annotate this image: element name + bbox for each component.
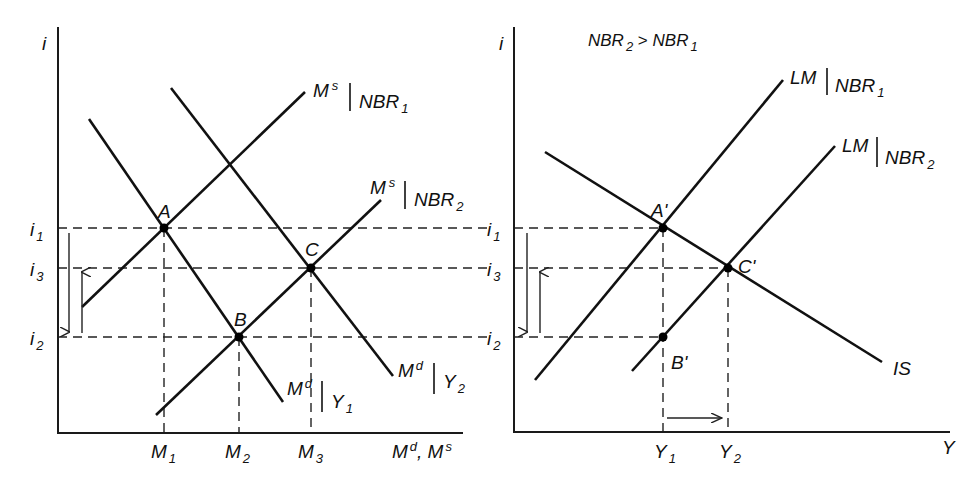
point-c: [307, 264, 316, 273]
point-c-label: C: [305, 239, 319, 260]
point-b-label: B: [234, 309, 247, 330]
svg-text:NBR1: NBR1: [359, 91, 408, 116]
svg-text:NBR2: NBR2: [414, 189, 464, 214]
left-panel-money-market: A B C i i1 i3 i2 M1 M2 M3 Md, Ms Ms NBR1…: [30, 27, 490, 466]
left-i2-label: i2: [30, 328, 44, 353]
md-y2-label: Md Y2: [398, 358, 466, 396]
svg-text:NBR1: NBR1: [835, 75, 884, 100]
point-b-prime: [659, 333, 668, 342]
point-a-prime: [659, 224, 668, 233]
m3-label: M3: [298, 441, 324, 466]
svg-text:Ms: Ms: [313, 78, 339, 101]
right-i3-label: i3: [487, 259, 501, 284]
right-panel-is-lm: A' B' C' i NBR2 > NBR1 i1 i3 i2 Y1 Y2 Y …: [487, 27, 956, 466]
y1-label: Y1: [654, 441, 676, 466]
point-c-prime: [724, 264, 733, 273]
is-label: IS: [893, 358, 911, 379]
svg-text:Y1: Y1: [331, 391, 353, 416]
money-market-islm-diagram: A B C i i1 i3 i2 M1 M2 M3 Md, Ms Ms NBR1…: [0, 0, 974, 494]
money-demand-y2-curve: [171, 88, 393, 376]
point-a-prime-label: A': [650, 200, 669, 221]
left-x-axis-label: Md, Ms: [392, 439, 452, 462]
money-demand-y1-curve: [89, 119, 283, 402]
svg-text:Ms: Ms: [370, 175, 396, 198]
left-i3-label: i3: [30, 259, 44, 284]
point-a-label: A: [157, 201, 171, 222]
money-supply-nbr1-curve: [82, 92, 305, 307]
svg-text:NBR2: NBR2: [885, 147, 935, 172]
m1-label: M1: [151, 441, 176, 466]
m2-label: M2: [225, 441, 251, 466]
svg-text:Y2: Y2: [443, 371, 466, 396]
ms-nbr1-label: Ms NBR1: [313, 78, 408, 116]
svg-text:Md: Md: [398, 358, 424, 381]
point-b-prime-label: B': [671, 352, 689, 373]
is-curve: [545, 152, 882, 362]
y2-label: Y2: [719, 441, 742, 466]
right-x-axis-label: Y: [942, 437, 956, 458]
right-i2-label: i2: [487, 328, 501, 353]
nbr-condition-label: NBR2 > NBR1: [588, 31, 698, 54]
ms-nbr2-label: Ms NBR2: [370, 175, 464, 214]
md-y1-label: Md Y1: [287, 376, 353, 416]
svg-text:LM: LM: [842, 135, 869, 156]
point-c-prime-label: C': [738, 256, 757, 277]
lm-nbr2-label: LM NBR2: [842, 135, 935, 172]
lm-nbr1-label: LM NBR1: [790, 67, 884, 100]
point-b: [235, 333, 244, 342]
svg-text:LM: LM: [790, 67, 817, 88]
point-a: [160, 224, 169, 233]
svg-text:Md: Md: [287, 376, 313, 399]
right-i1-label: i1: [487, 219, 500, 244]
left-i1-label: i1: [30, 219, 43, 244]
left-y-axis-label: i: [42, 33, 47, 54]
right-y-axis-label: i: [499, 33, 504, 54]
